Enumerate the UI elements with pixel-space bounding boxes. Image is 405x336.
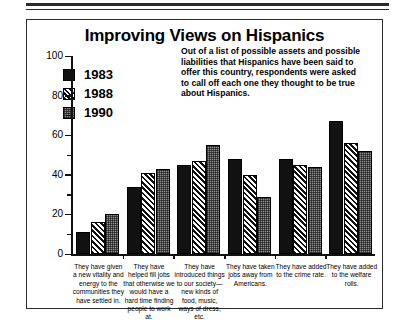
bar-group	[124, 56, 175, 254]
top-rule-thick	[26, 3, 389, 6]
bar-1990-4[interactable]	[257, 197, 271, 254]
y-tick	[65, 56, 71, 58]
bar-1988-5[interactable]	[293, 165, 307, 254]
y-tick	[65, 135, 71, 137]
x-tick	[123, 254, 125, 259]
chart-title: Improving Views on Hispanics	[27, 26, 382, 46]
x-tick	[173, 254, 175, 259]
bar-1983-1[interactable]	[76, 232, 90, 254]
bar-1990-3[interactable]	[206, 145, 220, 254]
category-label-5: They have added to the crime rate.	[275, 263, 327, 280]
bar-1990-1[interactable]	[105, 214, 119, 254]
x-tick	[224, 254, 226, 259]
y-tick-minor	[67, 155, 71, 157]
bar-series-container	[73, 56, 377, 254]
bar-group	[276, 56, 327, 254]
category-label-3: They have introduced things to our socie…	[174, 263, 226, 322]
y-tick-minor	[67, 75, 71, 77]
category-label-6: They have added to the welfare rolls.	[326, 263, 378, 288]
y-tick	[65, 174, 71, 176]
category-label-1: They have given a new vitality and energ…	[72, 263, 124, 305]
x-tick	[275, 254, 277, 259]
plot-area: 020406080100	[45, 56, 377, 261]
bar-1983-6[interactable]	[329, 121, 343, 254]
bar-1990-5[interactable]	[308, 167, 322, 254]
top-rule-thin	[26, 9, 389, 10]
x-axis	[71, 254, 375, 256]
y-axis-labels: 020406080100	[39, 56, 63, 254]
y-tick-label: 0	[41, 248, 63, 259]
y-tick	[65, 254, 71, 256]
y-tick-minor	[67, 194, 71, 196]
bar-1983-2[interactable]	[127, 187, 141, 254]
y-tick-minor	[67, 115, 71, 117]
bar-1983-4[interactable]	[228, 159, 242, 254]
y-tick	[65, 95, 71, 97]
bar-1990-6[interactable]	[358, 151, 372, 254]
bar-1990-2[interactable]	[156, 169, 170, 254]
chart-page: Improving Views on Hispanics Out of a li…	[0, 0, 405, 336]
y-tick-minor	[67, 234, 71, 236]
bar-1988-2[interactable]	[141, 173, 155, 254]
y-tick-label: 100	[41, 50, 63, 61]
bar-1988-6[interactable]	[344, 143, 358, 254]
category-label-2: They have helped fill jobs that otherwis…	[123, 263, 175, 322]
category-label-4: They have taken jobs away from Americans…	[224, 263, 276, 288]
bar-group	[225, 56, 276, 254]
bar-1983-5[interactable]	[279, 159, 293, 254]
y-tick-label: 60	[41, 129, 63, 140]
chart-frame: Improving Views on Hispanics Out of a li…	[26, 19, 383, 309]
y-tick-label: 80	[41, 90, 63, 101]
y-tick-label: 20	[41, 208, 63, 219]
y-tick-label: 40	[41, 169, 63, 180]
x-axis-category-labels: They have given a new vitality and energ…	[73, 263, 403, 325]
bar-1988-1[interactable]	[91, 222, 105, 254]
bar-1988-4[interactable]	[243, 175, 257, 254]
bar-1983-3[interactable]	[177, 165, 191, 254]
y-tick	[65, 214, 71, 216]
bar-group	[174, 56, 225, 254]
bar-group	[73, 56, 124, 254]
bar-group	[326, 56, 377, 254]
bar-1988-3[interactable]	[192, 161, 206, 254]
x-tick	[325, 254, 327, 259]
